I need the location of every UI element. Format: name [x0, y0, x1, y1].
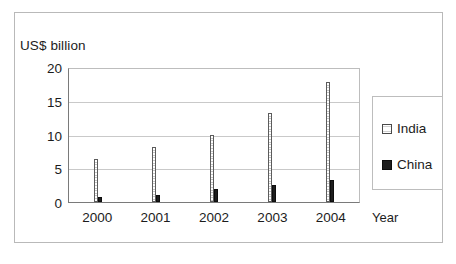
x-tick-label-2000: 2000: [82, 210, 112, 225]
legend-item-china[interactable]: China: [382, 157, 432, 172]
bar-china-2000[interactable]: [98, 197, 102, 202]
y-tick-label-20: 20: [28, 61, 62, 76]
legend-item-india[interactable]: India: [382, 121, 426, 136]
legend-label-india: India: [397, 121, 426, 136]
plot-area: [68, 68, 360, 203]
legend: India China: [372, 96, 443, 190]
bar-china-2004[interactable]: [330, 180, 334, 202]
y-tick-label-15: 15: [28, 94, 62, 109]
bar-group-2004: [301, 69, 359, 202]
x-tick-label-2002: 2002: [199, 210, 229, 225]
x-tick-label-2004: 2004: [316, 210, 346, 225]
y-tick-label-5: 5: [28, 162, 62, 177]
x-axis-tick-labels: 20002001200220032004: [68, 210, 360, 232]
legend-swatch-china-icon: [382, 160, 392, 170]
bar-india-2001[interactable]: [152, 147, 156, 202]
bar-china-2002[interactable]: [214, 189, 218, 202]
bar-group-2001: [127, 69, 185, 202]
bar-india-2000[interactable]: [94, 159, 98, 202]
y-axis-title: US$ billion: [20, 38, 86, 53]
bars-layer: [69, 69, 359, 202]
bar-chart-figure: US$ billion 20 15 10 5 0 200020012002200…: [0, 0, 456, 264]
legend-swatch-india-icon: [382, 124, 392, 134]
x-tick-label-2001: 2001: [141, 210, 171, 225]
bar-china-2001[interactable]: [156, 195, 160, 202]
y-axis-tick-labels: 20 15 10 5 0: [26, 68, 62, 203]
bar-group-2002: [185, 69, 243, 202]
bar-group-2003: [243, 69, 301, 202]
x-tick-label-2003: 2003: [257, 210, 287, 225]
legend-label-china: China: [397, 157, 432, 172]
y-tick-label-0: 0: [28, 196, 62, 211]
bar-group-2000: [69, 69, 127, 202]
y-tick-label-10: 10: [28, 128, 62, 143]
bar-china-2003[interactable]: [272, 185, 276, 202]
x-axis-title: Year: [372, 210, 398, 225]
